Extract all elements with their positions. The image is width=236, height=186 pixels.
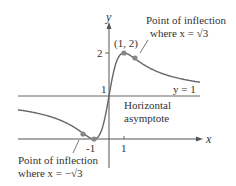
y-axis-label: y (105, 10, 112, 24)
asymptote-equation: y = 1 (173, 83, 196, 95)
x-tick-label-1: 1 (121, 142, 127, 154)
function-graph: x y -1 1 1 2 (1, 2) Point of inflection … (0, 0, 236, 186)
asymptote-label-line1: Horizontal (124, 99, 171, 111)
inflection-point-left (80, 131, 85, 136)
min-point (91, 136, 96, 141)
y-tick-label-1: 1 (101, 83, 107, 95)
y-tick-label-2: 2 (97, 47, 103, 59)
x-axis-label: x (205, 132, 212, 146)
asymptote-label-line2: asymptote (124, 112, 169, 124)
x-tick-label-neg1: -1 (86, 142, 95, 154)
max-point-label: (1, 2) (114, 37, 138, 50)
inflection-left-label-line1: Point of inflection (18, 154, 99, 166)
inflection-right-label-line2: where x = √3 (150, 27, 209, 39)
inflection-right-leader (140, 40, 148, 53)
inflection-right-label-line1: Point of inflection (146, 14, 227, 26)
inflection-left-label-line2: where x = −√3 (18, 167, 83, 179)
x-axis-arrow-icon (196, 137, 203, 142)
inflection-left-leader (73, 140, 79, 153)
inflection-point-right (132, 55, 137, 60)
max-point (121, 50, 126, 55)
